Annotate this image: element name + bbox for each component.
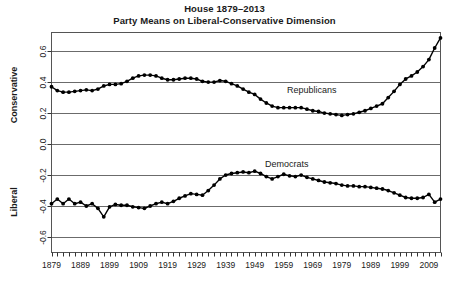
x-tick-label: 1989 [361, 260, 380, 270]
data-point [415, 196, 419, 200]
data-point [177, 196, 181, 200]
data-point [189, 76, 193, 80]
data-point [276, 106, 280, 110]
data-point [282, 172, 286, 176]
data-point [363, 109, 367, 113]
series-label-democrats: Democrats [265, 159, 309, 169]
data-point [421, 65, 425, 69]
data-point [276, 175, 280, 179]
y-axis-ticks [48, 52, 52, 238]
data-point [102, 84, 106, 88]
series-line [52, 171, 441, 217]
y-tick-label: 0.2 [38, 107, 48, 119]
data-point [84, 204, 88, 208]
data-point [224, 79, 228, 83]
data-point [206, 80, 210, 84]
data-point [346, 113, 350, 117]
data-point [212, 80, 216, 84]
data-point [264, 175, 268, 179]
data-point [334, 113, 338, 117]
x-tick-label: 1939 [216, 260, 235, 270]
y-tick-label: -0.2 [38, 168, 48, 183]
data-point [177, 77, 181, 81]
data-point [392, 191, 396, 195]
x-tick-label: 1879 [42, 260, 61, 270]
x-tick-label: 1949 [245, 260, 264, 270]
data-point [61, 90, 65, 94]
data-point [247, 90, 251, 94]
data-point [154, 74, 158, 78]
data-point [206, 189, 210, 193]
data-point [375, 104, 379, 108]
data-point [334, 182, 338, 186]
data-point [125, 79, 129, 83]
data-point [195, 193, 199, 197]
data-point [108, 83, 112, 87]
x-tick-label: 1909 [129, 260, 148, 270]
data-point [398, 83, 402, 87]
data-point [241, 87, 245, 91]
data-point [148, 73, 152, 77]
data-point [317, 179, 321, 183]
y-tick-label: -0.4 [38, 199, 48, 214]
data-point [410, 74, 414, 78]
data-point [137, 206, 141, 210]
chart-figure: House 1879–2013 Party Means on Liberal-C… [0, 0, 449, 284]
data-point [293, 175, 297, 179]
x-axis-tick-labels: 1879188918991909191919291939194919591969… [42, 260, 439, 270]
data-point [201, 193, 205, 197]
y-tick-label: 0.6 [38, 45, 48, 57]
data-point [381, 102, 385, 106]
data-point [415, 70, 419, 74]
data-point [235, 84, 239, 88]
data-point [293, 106, 297, 110]
series-label-republicans: Republicans [287, 85, 337, 95]
data-point [404, 77, 408, 81]
y-axis-tick-labels: 0.60.40.20.0-0.2-0.4-0.6 [38, 45, 48, 245]
data-point [282, 106, 286, 110]
data-point [427, 193, 431, 197]
data-point [108, 205, 112, 209]
y-axis-label-conservative: Conservative [9, 67, 19, 124]
data-point [84, 88, 88, 92]
data-point [195, 77, 199, 81]
x-axis-ticks [53, 253, 442, 257]
data-point [55, 89, 59, 93]
data-point [189, 192, 193, 196]
data-point [433, 46, 437, 50]
data-point [148, 204, 152, 208]
data-point [61, 202, 65, 206]
data-point [73, 202, 77, 206]
data-point [90, 89, 94, 93]
data-point [253, 93, 257, 97]
y-tick-label: 0.0 [38, 138, 48, 150]
gridlines-group [52, 52, 441, 238]
x-tick-label: 1899 [100, 260, 119, 270]
data-point [73, 89, 77, 93]
series-democrats [50, 169, 443, 219]
y-axis-label-liberal: Liberal [9, 187, 19, 217]
x-tick-label: 1979 [332, 260, 351, 270]
data-point [270, 177, 274, 181]
data-point [119, 203, 123, 207]
data-point [410, 196, 414, 200]
data-point [90, 202, 94, 206]
data-point [357, 110, 361, 114]
data-point [183, 194, 187, 198]
data-point [311, 109, 315, 113]
data-point [270, 104, 274, 108]
data-point [311, 177, 315, 181]
data-point [125, 203, 129, 207]
data-point [381, 187, 385, 191]
data-point [288, 106, 292, 110]
data-point [79, 200, 83, 204]
series-republicans [50, 36, 443, 117]
data-point [230, 172, 234, 176]
data-point [166, 202, 170, 206]
data-point [160, 76, 164, 80]
y-tick-label: 0.4 [38, 76, 48, 88]
data-point [113, 83, 117, 87]
data-point [143, 206, 147, 210]
x-tick-label: 1999 [390, 260, 409, 270]
data-point [253, 169, 257, 173]
